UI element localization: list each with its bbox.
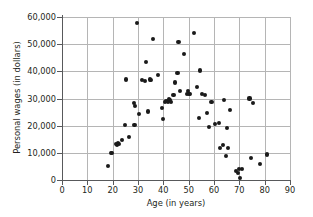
x-tick-mark: [113, 180, 114, 185]
data-point: [178, 89, 182, 93]
data-point: [137, 112, 141, 116]
y-axis-title: Personal wages (in dollars): [13, 28, 22, 168]
grid-line-horizontal: [62, 153, 290, 154]
data-point: [226, 146, 230, 150]
data-point: [151, 37, 155, 41]
data-point: [120, 138, 124, 142]
x-tick-mark: [163, 180, 164, 185]
data-point: [106, 164, 110, 168]
data-point: [240, 167, 244, 171]
data-point: [198, 68, 202, 72]
data-point: [207, 125, 211, 129]
data-point: [197, 116, 201, 120]
y-tick-mark: [57, 17, 62, 18]
grid-line-horizontal: [62, 126, 290, 127]
data-point: [161, 117, 165, 121]
y-tick-mark: [57, 153, 62, 154]
data-point: [222, 98, 226, 102]
data-point: [188, 92, 192, 96]
data-point: [143, 79, 147, 83]
data-point: [133, 104, 137, 108]
y-tick-mark: [57, 126, 62, 127]
grid-line-vertical: [290, 17, 291, 180]
grid-line-horizontal: [62, 44, 290, 45]
x-axis-title: Age (in years): [62, 199, 290, 208]
data-point: [182, 52, 186, 56]
data-point: [249, 156, 253, 160]
data-point: [224, 154, 228, 158]
grid-line-horizontal: [62, 99, 290, 100]
y-tick-label: 30,000: [2, 95, 56, 103]
y-tick-mark: [57, 99, 62, 100]
data-point: [221, 143, 225, 147]
data-point: [258, 162, 262, 166]
data-point: [265, 152, 269, 156]
y-tick-mark: [57, 44, 62, 45]
data-point: [175, 71, 179, 75]
data-point: [251, 101, 255, 105]
y-tick-label: 10,000: [2, 149, 56, 157]
y-tick-label: 20,000: [2, 122, 56, 130]
x-tick-mark: [290, 180, 291, 185]
plot-area: [62, 17, 290, 180]
data-point: [144, 60, 148, 64]
data-point: [247, 96, 251, 100]
x-tick-mark: [265, 180, 266, 185]
y-tick-mark: [57, 180, 62, 181]
y-tick-mark: [57, 71, 62, 72]
y-axis-line: [62, 15, 63, 181]
x-tick-mark: [62, 180, 63, 185]
data-point: [173, 80, 177, 84]
data-point: [171, 93, 175, 97]
scatter-plot-figure: 010,00020,00030,00040,00050,00060,000 01…: [0, 0, 313, 217]
x-axis-line: [61, 180, 291, 181]
data-point: [228, 108, 232, 112]
y-tick-label: 60,000: [2, 13, 56, 21]
x-tick-mark: [87, 180, 88, 185]
x-tick-mark: [189, 180, 190, 185]
y-tick-label: 40,000: [2, 67, 56, 75]
data-point: [124, 77, 128, 81]
y-tick-label: 50,000: [2, 40, 56, 48]
x-tick-mark: [138, 180, 139, 185]
data-point: [135, 21, 139, 25]
data-point: [205, 111, 209, 115]
y-tick-label-group: 010,00020,00030,00040,00050,00060,000: [0, 0, 56, 217]
data-point: [195, 85, 199, 89]
data-point: [203, 93, 207, 97]
data-point: [146, 109, 150, 113]
x-tick-mark: [239, 180, 240, 185]
data-point: [149, 78, 153, 82]
y-tick-label: 0: [2, 176, 56, 184]
data-point: [176, 40, 180, 44]
data-point: [209, 100, 213, 104]
data-point: [217, 121, 221, 125]
data-point: [117, 142, 121, 146]
data-point: [156, 73, 160, 77]
x-tick-label: 90: [275, 186, 305, 194]
data-point: [225, 126, 229, 130]
data-point: [127, 135, 131, 139]
data-point: [169, 100, 173, 104]
data-point: [110, 151, 114, 155]
x-tick-mark: [214, 180, 215, 185]
grid-line-horizontal: [62, 17, 290, 18]
data-point: [192, 31, 196, 35]
data-point: [132, 123, 136, 127]
